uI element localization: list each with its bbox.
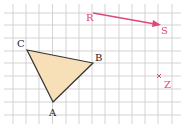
arrowhead-icon <box>152 20 161 27</box>
label-a: A <box>48 107 57 118</box>
grid-canvas: C B A R S Z <box>0 0 186 131</box>
label-r: R <box>86 12 94 23</box>
label-b: B <box>95 52 102 63</box>
geometry-diagram: C B A R S Z <box>0 0 186 131</box>
label-z: Z <box>164 79 171 90</box>
label-c: C <box>17 38 25 49</box>
vector-rs-line <box>93 13 155 24</box>
label-s: S <box>161 25 168 36</box>
